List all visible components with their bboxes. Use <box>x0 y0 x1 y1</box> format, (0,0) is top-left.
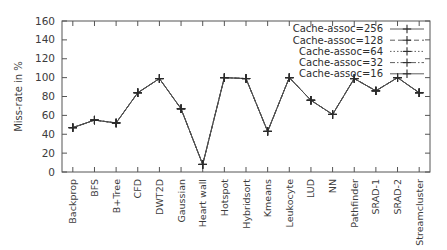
series-line-3 <box>73 78 419 165</box>
data-point <box>199 160 207 168</box>
data-point <box>177 105 185 113</box>
x-tick-label: LUD <box>305 179 316 198</box>
x-tick-label: BFS <box>89 179 100 197</box>
y-tick-label: 0 <box>48 166 55 178</box>
data-point <box>134 89 142 97</box>
x-tick-label: Kmeans <box>262 179 273 217</box>
data-point <box>415 89 423 97</box>
data-point <box>90 116 98 124</box>
y-tick-label: 20 <box>42 147 55 159</box>
x-tick-label: Leukocyte <box>284 179 295 228</box>
data-point <box>263 127 271 135</box>
y-tick-label: 160 <box>35 15 55 27</box>
data-point <box>220 73 228 81</box>
y-tick-label: 40 <box>42 128 55 140</box>
legend-marker-0 <box>403 25 411 33</box>
x-tick-label: Streamcluster <box>414 179 425 246</box>
y-tick-label: 60 <box>42 109 55 121</box>
x-tick-label: Heart wall <box>197 179 208 227</box>
legend-marker-4 <box>403 70 411 78</box>
y-tick-label: 100 <box>35 71 55 83</box>
series-line-0 <box>73 78 419 165</box>
data-point <box>372 87 380 95</box>
data-point <box>328 110 336 118</box>
x-tick-label: DWT2D <box>154 179 165 215</box>
legend-marker-1 <box>403 36 411 44</box>
y-tick-label: 140 <box>35 33 55 45</box>
x-tick-label: SRAD-1 <box>370 179 381 215</box>
x-tick-label: B+Tree <box>111 179 122 213</box>
x-tick-label: SRAD-2 <box>392 179 403 215</box>
legend-marker-3 <box>403 58 411 66</box>
legend-label-0: Cache-assoc=256 <box>293 23 383 34</box>
x-tick-label: Backprop <box>67 179 78 224</box>
legend-label-1: Cache-assoc=128 <box>293 35 383 46</box>
data-point <box>112 119 120 127</box>
y-axis-title: Miss-rate in % <box>13 61 24 132</box>
x-tick-label: CFD <box>132 179 143 198</box>
x-tick-label: Hotspot <box>219 179 230 216</box>
data-point <box>155 74 163 82</box>
miss-rate-line-chart: 020406080100120140160Miss-rate in %Backp… <box>0 0 447 250</box>
y-tick-label: 80 <box>42 90 55 102</box>
data-point <box>242 74 250 82</box>
x-tick-label: NN <box>327 179 338 193</box>
x-tick-label: Gaussian <box>176 179 187 223</box>
x-tick-label: Pathfinder <box>349 179 360 228</box>
x-tick-label: Hybridsort <box>241 179 252 229</box>
data-point <box>393 73 401 81</box>
data-point <box>69 123 77 131</box>
series-line-1 <box>73 78 419 165</box>
series-line-2 <box>73 78 419 165</box>
y-tick-label: 120 <box>35 52 55 64</box>
legend-label-2: Cache-assoc=64 <box>299 46 383 57</box>
legend-marker-2 <box>403 47 411 55</box>
legend-label-4: Cache-assoc=16 <box>299 68 383 79</box>
series-line-4 <box>73 78 419 165</box>
legend-label-3: Cache-assoc=32 <box>299 57 383 68</box>
chart-container: 020406080100120140160Miss-rate in %Backp… <box>0 0 447 250</box>
